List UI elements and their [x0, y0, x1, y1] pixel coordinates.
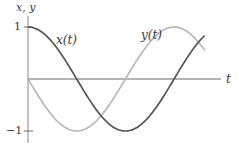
chart-container: x, y 1 −1 x(t) y(t) t — [0, 0, 239, 146]
plot-area — [0, 0, 239, 146]
x-axis-label: t — [226, 73, 231, 85]
series-y-label: y(t) — [141, 29, 162, 41]
tick-label-pos-one: 1 — [14, 21, 21, 32]
tick-label-neg-one: −1 — [6, 125, 22, 136]
series-x-label: x(t) — [56, 34, 77, 46]
y-axis-label: x, y — [16, 2, 35, 13]
